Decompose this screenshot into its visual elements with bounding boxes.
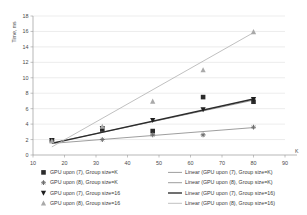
x-tick-label: 50 [156,160,162,166]
data-point-s0-p3 [201,95,206,100]
y-tick-label: 8 [26,90,29,96]
x-axis-title: K [295,148,299,154]
y-tick-label: 16 [23,28,29,34]
legend-marker-2 [41,191,46,196]
legend-label-line-1: Linear (GPU upon (8), Group size=K) [185,179,273,185]
chart-svg: 024681012141618102030405060708090 Time, … [0,0,307,215]
legend-label-marker-3: GPU upon (8), Group size=16 [50,200,120,206]
legend-label-marker-1: GPU upon (8), Group size=K [50,179,118,185]
data-point-s3-p3 [201,67,206,72]
x-tick-label: 10 [30,160,36,166]
x-tick-label: 40 [125,160,131,166]
y-tick-label: 0 [26,152,29,158]
legend-marker-3 [41,201,46,206]
x-tick-label: 60 [188,160,194,166]
y-tick-label: 10 [23,75,29,81]
y-tick-label: 6 [26,106,29,112]
y-tick-label: 4 [26,121,29,127]
legend-marker-0 [41,170,46,175]
x-tick-label: 80 [251,160,257,166]
chart-container: 024681012141618102030405060708090 Time, … [0,0,307,215]
data-point-s3-p2 [150,99,155,104]
legend-label-marker-0: GPU upon (7), Group size=K [50,169,118,175]
legend-label-line-3: Linear (GPU upon (8), Group size=16) [185,200,275,206]
x-tick-label: 90 [282,160,288,166]
legend-label-marker-2: GPU upon (7), Group size=16 [50,190,120,196]
gridlines [33,16,285,140]
y-tick-label: 12 [23,59,29,65]
legend-label-line-0: Linear (GPU upon (7), Group size=K) [185,169,273,175]
x-tick-label: 30 [93,160,99,166]
axis-titles: Time, msK [11,21,299,153]
x-tick-label: 20 [62,160,68,166]
y-axis-title: Time, ms [11,21,17,43]
legend-label-line-2: Linear (GPU upon (7), Group size=16) [185,190,275,196]
y-tick-label: 18 [23,13,29,19]
x-tick-label: 70 [219,160,225,166]
chart-legend: GPU upon (7), Group size=KGPU upon (8), … [41,169,275,206]
y-tick-label: 2 [26,137,29,143]
data-markers [49,29,256,143]
y-tick-label: 14 [23,44,29,50]
